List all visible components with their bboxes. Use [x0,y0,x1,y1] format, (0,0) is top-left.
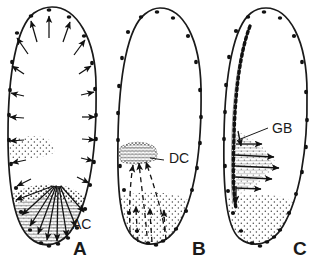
left-mid-stipple [9,136,55,159]
panel-c: GB C [222,8,309,259]
figure-root: AC A [0,0,323,269]
panel-a: AC A [7,7,98,259]
label-dc: DC [169,150,189,166]
label-ac: AC [72,216,91,232]
differentiation-centre-hatch [121,144,156,162]
panel-letter-b: B [192,238,206,259]
panel-letter-c: C [293,238,307,259]
label-gb: GB [272,120,292,136]
cytoplasm-arrows-a [10,16,95,186]
embryo-figure-svg: AC A [0,0,323,269]
panel-b: DC B [116,8,206,259]
panel-letter-a: A [73,238,87,259]
